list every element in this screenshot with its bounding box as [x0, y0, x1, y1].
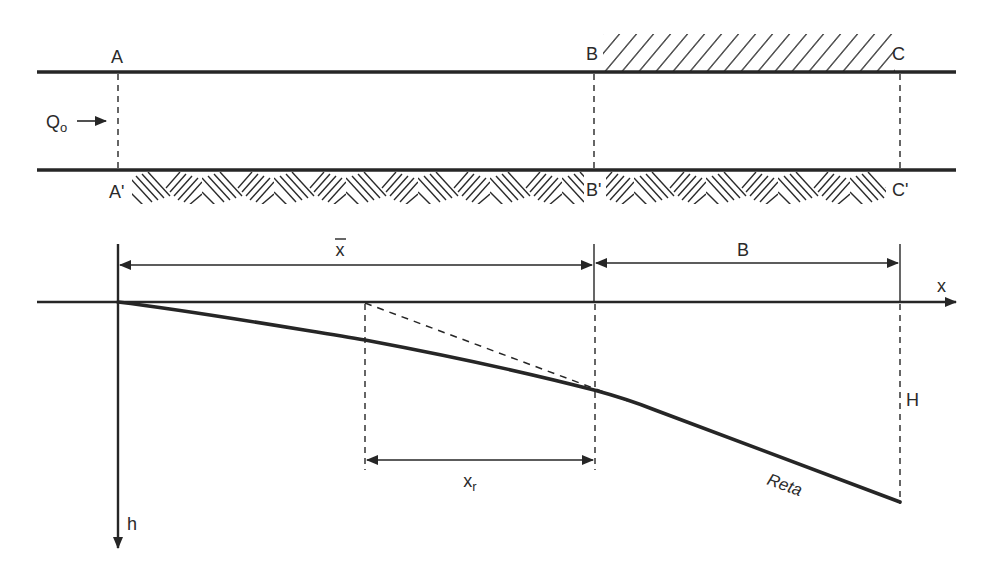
dimension-xr-label: xr [463, 471, 477, 494]
h-axis-label: h [127, 514, 137, 534]
water-table-curve [118, 302, 900, 502]
lower-bed-crosshatch [132, 172, 895, 204]
upper-bank-hatch [603, 34, 895, 72]
label-a-prime: A' [109, 182, 124, 202]
plan-view: A A' B B' C C' Qo [37, 34, 956, 204]
label-c-prime: C' [892, 180, 908, 200]
dimension-b-label: B [737, 240, 749, 260]
x-axis-label: x [937, 276, 946, 296]
profile-view: x B x h xr H Reta [37, 239, 956, 548]
canal-infiltration-diagram: A A' B B' C C' Qo x B x h [0, 0, 982, 570]
label-c: C [892, 44, 905, 64]
inflow-label: Qo [46, 112, 67, 135]
label-b-prime: B' [586, 180, 601, 200]
label-b: B [586, 44, 598, 64]
label-reta: Reta [765, 470, 805, 500]
dimension-xbar-label: x [336, 240, 345, 260]
label-h-capital: H [906, 390, 919, 410]
tangent-dashed-line [365, 303, 628, 401]
label-a: A [111, 47, 123, 67]
